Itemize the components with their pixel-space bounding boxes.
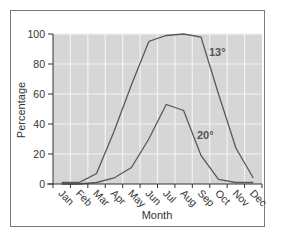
- series-label-0: 13°: [209, 46, 226, 58]
- x-tick-label: Apr: [109, 187, 129, 207]
- y-tick-label: 80: [33, 58, 45, 70]
- x-tick-label: Jul: [161, 187, 179, 205]
- x-tick-label: Feb: [74, 187, 95, 208]
- y-tick-label: 100: [27, 28, 45, 40]
- x-tick-label: Nov: [230, 187, 252, 209]
- series-label-1: 20°: [197, 129, 214, 141]
- x-tick-label: Aug: [178, 187, 200, 209]
- y-axis-title: Percentage: [15, 82, 27, 138]
- x-axis-ticks: JanFebMarAprMayJunJulAugSepOctNovDec: [53, 184, 270, 210]
- y-tick-label: 0: [39, 178, 45, 190]
- x-tick-label: May: [126, 187, 149, 210]
- y-tick-label: 20: [33, 148, 45, 160]
- x-tick-label: Sep: [196, 187, 218, 209]
- x-tick-label: Jan: [56, 187, 77, 208]
- line-chart: 020406080100 JanFebMarAprMayJunJulAugSep…: [0, 0, 283, 247]
- y-tick-label: 60: [33, 88, 45, 100]
- x-tick-label: Oct: [213, 187, 233, 207]
- x-tick-label: Dec: [248, 187, 270, 209]
- x-tick-label: Mar: [91, 187, 113, 209]
- y-axis-ticks: 020406080100: [27, 28, 53, 190]
- y-tick-label: 40: [33, 118, 45, 130]
- x-axis-title: Month: [142, 209, 173, 221]
- x-tick-label: Jun: [143, 187, 164, 208]
